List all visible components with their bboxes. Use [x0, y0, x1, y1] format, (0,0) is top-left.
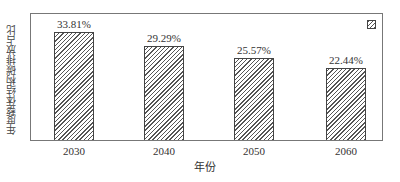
bar-2030 — [54, 32, 94, 140]
plot-area — [30, 13, 383, 141]
value-label-2040: 29.29% — [134, 32, 194, 44]
value-label-2030: 33.81% — [44, 18, 104, 30]
value-label-2060: 22.44% — [316, 54, 376, 66]
x-tick-2030: 2030 — [54, 145, 94, 157]
x-axis-label: 年份 — [190, 158, 220, 174]
x-tick-2050: 2050 — [234, 145, 274, 157]
y-axis-label: 年度整体结构碳排放占比 — [4, 20, 18, 140]
bar-2040 — [144, 46, 184, 140]
bar-2050 — [234, 58, 274, 140]
value-label-2050: 25.57% — [224, 44, 284, 56]
x-tick-2040: 2040 — [144, 145, 184, 157]
bar-2060 — [326, 68, 366, 140]
legend-hatch-swatch-icon — [367, 20, 376, 29]
x-tick-2060: 2060 — [326, 145, 366, 157]
